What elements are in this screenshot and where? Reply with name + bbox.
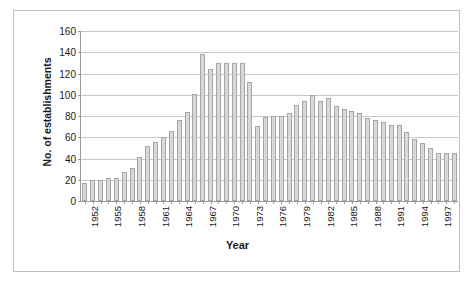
bar: [420, 143, 425, 201]
x-tick-mark: [187, 201, 188, 204]
x-tick-mark: [344, 201, 345, 204]
bar: [192, 94, 197, 201]
x-tick-label: 1964: [183, 206, 194, 227]
x-tick-mark: [132, 201, 133, 204]
x-tick-mark: [383, 201, 384, 204]
x-tick-mark: [399, 201, 400, 204]
bar: [342, 109, 347, 201]
x-tick-label: 1961: [160, 206, 171, 227]
bar: [294, 105, 299, 201]
bar: [404, 132, 409, 201]
y-tick-label: 160: [59, 26, 76, 37]
bar: [349, 111, 354, 201]
x-tick-label: 1967: [207, 206, 218, 227]
bar: [114, 178, 119, 201]
x-tick-mark: [446, 201, 447, 204]
bar: [271, 116, 276, 201]
bar: [137, 157, 142, 201]
x-tick-mark: [203, 201, 204, 204]
bar: [247, 82, 252, 201]
bar: [452, 153, 457, 201]
bar: [82, 183, 87, 201]
x-tick-label: 1973: [254, 206, 265, 227]
x-tick-label: 1970: [230, 206, 241, 227]
bar: [240, 63, 245, 201]
bar: [98, 180, 103, 201]
x-axis-title: Year: [14, 239, 461, 251]
bar: [130, 168, 135, 201]
y-tick-label: 0: [70, 196, 76, 207]
x-tick-mark: [242, 201, 243, 204]
bar: [397, 125, 402, 202]
bar: [169, 131, 174, 201]
bar: [255, 126, 260, 201]
x-tick-mark: [336, 201, 337, 204]
bar: [145, 146, 150, 201]
x-tick-mark: [415, 201, 416, 204]
bar: [389, 125, 394, 202]
bar: [412, 139, 417, 201]
x-tick-mark: [108, 201, 109, 204]
x-tick-mark: [321, 201, 322, 204]
bar: [444, 153, 449, 201]
y-tick-label: 100: [59, 89, 76, 100]
chart-frame: No. of establishments 020406080100120140…: [13, 10, 460, 272]
x-tick-mark: [250, 201, 251, 204]
bar: [90, 180, 95, 201]
x-tick-mark: [179, 201, 180, 204]
y-tick-label: 140: [59, 47, 76, 58]
bar: [279, 116, 284, 201]
x-tick-mark: [140, 201, 141, 204]
x-tick-mark: [352, 201, 353, 204]
x-axis-ticks: 1952195519581961196419671970197319761979…: [81, 201, 458, 261]
x-tick-label: 1952: [89, 206, 100, 227]
bar: [318, 101, 323, 201]
x-tick-mark: [391, 201, 392, 204]
plot-area: 020406080100120140160 195219551958196119…: [80, 31, 458, 202]
bar: [287, 113, 292, 201]
x-tick-mark: [116, 201, 117, 204]
x-tick-mark: [454, 201, 455, 204]
x-tick-mark: [266, 201, 267, 204]
bar: [302, 101, 307, 201]
bar: [357, 113, 362, 201]
bar: [334, 106, 339, 201]
x-tick-label: 1982: [325, 206, 336, 227]
x-tick-mark: [226, 201, 227, 204]
bar: [263, 117, 268, 201]
x-tick-mark: [305, 201, 306, 204]
x-tick-mark: [376, 201, 377, 204]
x-tick-mark: [156, 201, 157, 204]
x-tick-mark: [234, 201, 235, 204]
bar: [216, 63, 221, 201]
x-tick-mark: [423, 201, 424, 204]
x-tick-mark: [124, 201, 125, 204]
x-tick-mark: [163, 201, 164, 204]
x-tick-mark: [438, 201, 439, 204]
x-tick-label: 1991: [395, 206, 406, 227]
bar: [381, 122, 386, 201]
bar: [200, 54, 205, 201]
x-tick-label: 1976: [277, 206, 288, 227]
bar: [428, 148, 433, 201]
bar: [310, 95, 315, 201]
bars-layer: [81, 31, 458, 201]
bar: [185, 112, 190, 201]
x-tick-mark: [431, 201, 432, 204]
bar: [436, 153, 441, 201]
x-tick-mark: [218, 201, 219, 204]
x-tick-mark: [148, 201, 149, 204]
x-tick-mark: [195, 201, 196, 204]
x-tick-label: 1958: [136, 206, 147, 227]
x-tick-mark: [328, 201, 329, 204]
bar: [373, 120, 378, 201]
x-tick-mark: [93, 201, 94, 204]
x-tick-mark: [281, 201, 282, 204]
x-tick-mark: [101, 201, 102, 204]
bar: [106, 178, 111, 201]
x-tick-mark: [407, 201, 408, 204]
bar: [177, 120, 182, 201]
x-tick-mark: [297, 201, 298, 204]
x-tick-mark: [289, 201, 290, 204]
x-tick-mark: [368, 201, 369, 204]
